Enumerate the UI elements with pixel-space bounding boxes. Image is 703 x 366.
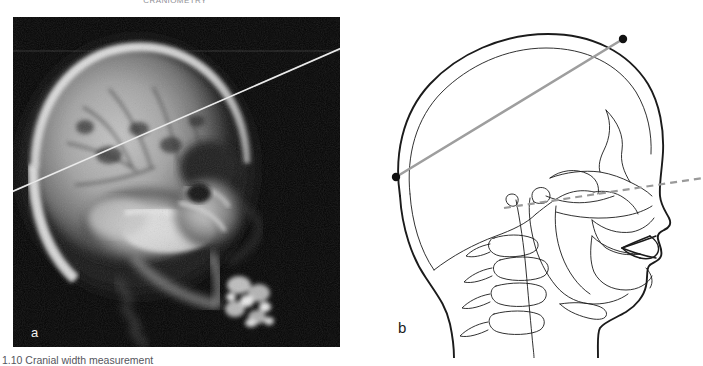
panel-b-tracing: b (360, 6, 703, 358)
figure-top-caption: CRANIOMETRY (0, 0, 350, 5)
figure-bottom-caption: 1.10 Cranial width measurement (2, 354, 692, 366)
panel-label-a: a (31, 326, 38, 339)
figure-root: CRANIOMETRY (0, 0, 703, 366)
tracing-drawing (360, 6, 703, 358)
radiograph-image (13, 17, 340, 347)
landmark-euryon-right (619, 35, 627, 43)
panel-label-b: b (398, 320, 406, 335)
panel-a-radiograph: a (13, 17, 340, 347)
landmark-euryon-left (392, 173, 400, 181)
